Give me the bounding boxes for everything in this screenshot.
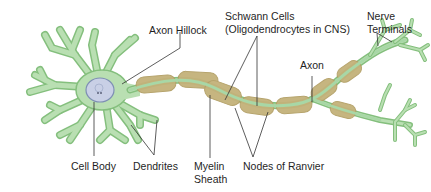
label-axon-hillock: Axon Hillock [149,24,207,37]
label-schwann-cells: Schwann Cells (Oligodendrocytes in CNS) [225,10,350,35]
label-myelin-sheath: Myelin Sheath [194,160,227,185]
label-dendrites: Dendrites [133,160,178,173]
nucleus [86,78,114,102]
myelin-segments [135,58,364,120]
axon-shape [130,40,405,106]
neuron-diagram: Axon Hillock Schwann Cells (Oligodendroc… [0,0,431,192]
label-nodes-of-ranvier: Nodes of Ranvier [243,160,324,173]
label-nerve-terminals: Nerve Terminals [367,10,412,35]
label-cell-body: Cell Body [71,160,116,173]
label-axon: Axon [300,59,324,72]
